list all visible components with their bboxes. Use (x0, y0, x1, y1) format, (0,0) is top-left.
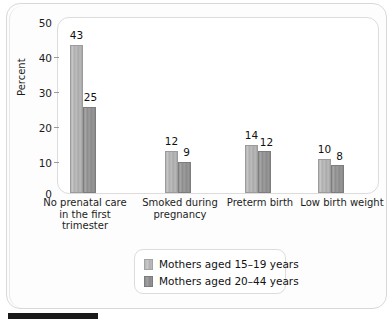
bar-group3-series-a[interactable] (318, 159, 331, 193)
y-tick-mark-30 (54, 92, 59, 93)
legend-item-0[interactable]: Mothers aged 15–19 years (144, 257, 299, 271)
y-tick-label-50: 50 (39, 18, 52, 28)
bar-group2-series-b[interactable] (258, 151, 271, 193)
y-tick-mark-40 (54, 57, 59, 58)
bar-group0-series-b[interactable] (83, 107, 96, 193)
bar-group1-series-b[interactable] (178, 162, 191, 193)
bar-group0-series-a[interactable] (70, 45, 83, 193)
y-tick-label-40: 40 (39, 53, 52, 63)
bar-group3-series-b[interactable] (331, 165, 344, 193)
figure-root: 50 40 30 20 10 0 Percent 43 25 12 9 14 1… (0, 0, 391, 323)
legend-item-0-label: Mothers aged 15–19 years (159, 258, 299, 270)
y-axis-title: Percent (16, 58, 27, 96)
x-category-label-0: No prenatal care in the first trimester (33, 197, 137, 232)
y-tick-label-10: 10 (39, 158, 52, 168)
legend-item-1-label: Mothers aged 20–44 years (159, 275, 299, 287)
y-tick-mark-10 (54, 162, 59, 163)
series-a-swatch-icon (144, 259, 153, 270)
bar-group1-series-a[interactable] (165, 151, 178, 193)
series-b-swatch-icon (144, 276, 153, 287)
bar-group2-series-a[interactable] (245, 145, 258, 193)
x-category-label-1: Smoked during pregnancy (132, 197, 228, 220)
x-category-label-3: Low birth weight (296, 197, 388, 209)
y-tick-label-20: 20 (39, 123, 52, 133)
bottom-black-rule (8, 313, 98, 319)
legend: Mothers aged 15–19 years Mothers aged 20… (134, 249, 286, 294)
y-axis: 50 40 30 20 10 0 (20, 12, 60, 202)
y-tick-label-30: 30 (39, 88, 52, 98)
y-tick-mark-20 (54, 127, 59, 128)
x-category-label-2: Preterm birth (222, 197, 298, 209)
legend-item-1[interactable]: Mothers aged 20–44 years (144, 274, 299, 288)
